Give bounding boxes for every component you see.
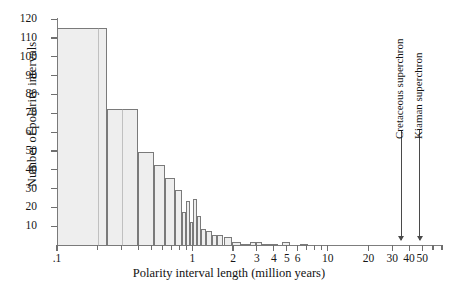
x-axis-tick-major <box>56 245 57 251</box>
y-axis-tick-label: 110 <box>20 32 37 44</box>
y-axis-tick-label: 120 <box>20 13 37 25</box>
x-axis-tick-label: 40 <box>403 252 415 264</box>
superchron-label: Kiaman superchron <box>413 53 424 139</box>
x-axis-tick-major <box>327 245 328 251</box>
x-axis-tick <box>171 245 172 250</box>
y-axis-tick-label: 10 <box>26 220 38 232</box>
x-axis-tick-major <box>297 245 298 251</box>
histogram-bar <box>175 190 182 247</box>
plot-area <box>57 18 442 246</box>
y-axis-tick-labels: 102030405060708090100110120 <box>0 0 48 291</box>
x-axis-tick-label: 30 <box>386 252 398 264</box>
histogram-bar <box>217 235 224 246</box>
x-axis-tick <box>151 245 152 250</box>
y-axis-tick-label: 90 <box>26 70 38 82</box>
x-axis-tick <box>321 245 322 250</box>
x-axis-tick <box>314 245 315 250</box>
x-axis-tick <box>186 245 187 250</box>
x-axis-tick-major <box>192 245 193 251</box>
histogram-bar <box>154 165 165 246</box>
histogram-bar <box>165 178 175 246</box>
x-axis-title: Polarity interval length (million years) <box>0 266 458 281</box>
x-axis-tick-label: 5 <box>284 252 290 264</box>
y-axis-tick-label: 40 <box>26 164 38 176</box>
x-axis-tick <box>97 245 98 250</box>
x-axis-tick-label: 3 <box>254 252 260 264</box>
x-axis-tick-major <box>256 245 257 251</box>
y-axis-tick-label: 20 <box>26 201 38 213</box>
x-axis-tick <box>306 245 307 250</box>
y-axis-tick-label: 30 <box>26 183 38 195</box>
histogram-bar <box>241 244 249 246</box>
y-axis-tick-label: 60 <box>26 126 38 138</box>
x-axis-tick-label: 20 <box>363 252 375 264</box>
x-axis-tick-major <box>286 245 287 251</box>
x-axis-tick-label: .1 <box>53 252 62 264</box>
histogram-bar <box>107 109 138 246</box>
histogram-bar <box>57 28 107 246</box>
histogram-bar <box>224 237 232 246</box>
bar-inner-separator <box>98 28 99 246</box>
x-axis-tick-major <box>422 245 423 251</box>
x-axis-tick-label: 4 <box>271 252 277 264</box>
x-axis-tick <box>162 245 163 250</box>
y-axis-tick-label: 80 <box>26 88 38 100</box>
x-axis-tick-label: 6 <box>295 252 301 264</box>
x-axis-tick-label: 50 <box>416 252 428 264</box>
histogram-bar <box>262 244 269 246</box>
x-axis-tick-major <box>409 245 410 251</box>
x-axis-tick-major <box>273 245 274 251</box>
figure-polarity-interval-histogram: Number of polarity intervals 10203040506… <box>0 0 458 291</box>
x-axis-tick-major <box>232 245 233 251</box>
y-axis-tick-label: 100 <box>20 51 37 63</box>
histogram-bar <box>138 152 153 246</box>
x-axis-tick-label: 1 <box>189 252 195 264</box>
x-axis-tick <box>179 245 180 250</box>
y-axis-tick-label: 50 <box>26 145 38 157</box>
y-axis-tick-label: 70 <box>26 107 38 119</box>
x-axis-tick <box>432 245 433 250</box>
bar-inner-separator <box>122 109 123 246</box>
x-axis-tick-major <box>392 245 393 251</box>
superchron-arrow <box>401 130 402 240</box>
x-axis-tick <box>121 245 122 250</box>
x-axis-tick-label: 10 <box>322 252 334 264</box>
x-axis-tick-label: 2 <box>230 252 236 264</box>
superchron-arrow <box>419 130 420 240</box>
x-axis-tick-major <box>368 245 369 251</box>
x-axis-tick <box>138 245 139 250</box>
superchron-label: Cretaceous superchron <box>394 39 405 140</box>
x-axis-tick <box>441 245 442 250</box>
